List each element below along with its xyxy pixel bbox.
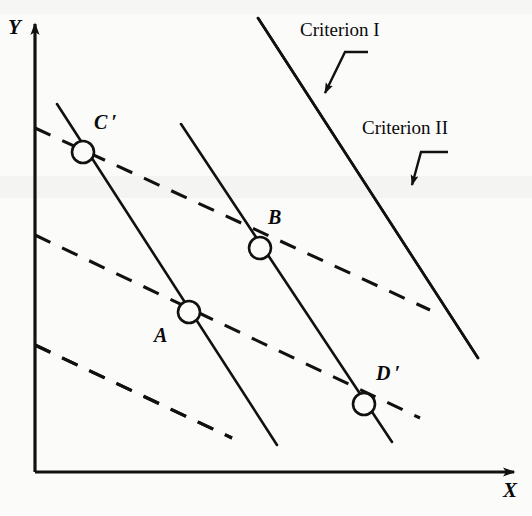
criterion-1-leader [325, 52, 368, 93]
dashed-line-2 [35, 235, 420, 418]
point-marker-C-prime [72, 141, 94, 163]
criterion-2-leader [412, 152, 448, 185]
point-label-A: A [154, 325, 167, 345]
point-label-D-prime: D ′ [376, 363, 400, 383]
point-label-B: B [268, 207, 281, 227]
y-axis-label: Y [8, 17, 21, 38]
criterion-2-label: Criterion II [362, 118, 448, 137]
diagram-canvas [0, 0, 532, 516]
point-label-C-prime: C ′ [94, 112, 117, 132]
dashed-line-family [35, 128, 430, 438]
criterion-1-label: Criterion I [300, 20, 380, 39]
point-markers [72, 141, 375, 415]
point-marker-B [249, 237, 271, 259]
solid-line-family [57, 18, 478, 445]
solid-line-4 [258, 18, 478, 358]
point-marker-D-prime [353, 393, 375, 415]
axes [35, 24, 514, 472]
x-axis-label: X [503, 480, 517, 501]
criterion-diagram: Y X Criterion I Criterion II C ′ B A D ′ [0, 0, 532, 516]
point-marker-A [178, 301, 200, 323]
dashed-line-4 [35, 345, 232, 438]
